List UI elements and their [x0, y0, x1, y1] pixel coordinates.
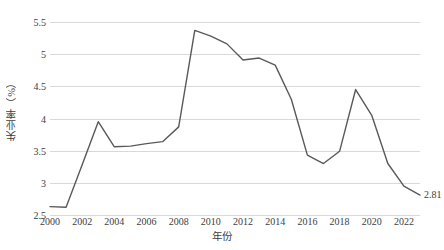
y-tick-label: 3.5 [2, 145, 46, 156]
x-tick-label: 2002 [72, 216, 92, 227]
y-tick-label: 4.5 [2, 81, 46, 92]
x-axis-title: 年份 [0, 228, 444, 243]
x-tick-label: 2008 [169, 216, 189, 227]
line-chart: 失业率（%） 2.533.544.555.5 2.81 200020022004… [0, 0, 444, 250]
y-tick-label: 4 [2, 113, 46, 124]
x-tick-label: 2018 [330, 216, 350, 227]
x-tick-label: 2010 [201, 216, 221, 227]
x-tick-label: 2012 [233, 216, 253, 227]
x-tick-label: 2004 [104, 216, 124, 227]
x-tick-label: 2016 [297, 216, 317, 227]
y-tick-label: 5.5 [2, 17, 46, 28]
y-axis-tick-labels: 2.533.544.555.5 [0, 22, 46, 215]
x-tick-label: 2020 [362, 216, 382, 227]
data-point-labels: 2.81 [50, 22, 420, 215]
y-tick-label: 5 [2, 49, 46, 60]
x-tick-label: 2000 [40, 216, 60, 227]
x-tick-label: 2022 [394, 216, 414, 227]
x-tick-label: 2014 [265, 216, 285, 227]
y-tick-label: 3 [2, 177, 46, 188]
data-point-label: 2.81 [424, 189, 442, 200]
x-tick-label: 2006 [137, 216, 157, 227]
